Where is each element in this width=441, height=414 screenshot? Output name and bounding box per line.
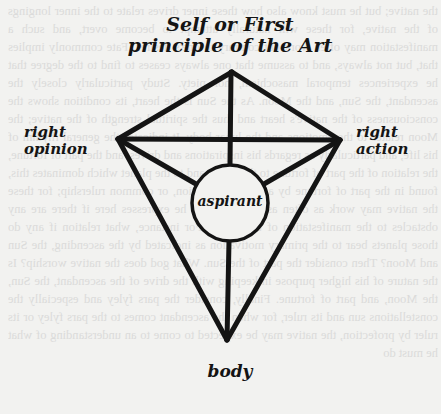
right-label-line-2: action (356, 141, 426, 158)
node-right-opinion: right opinion (24, 124, 94, 158)
edge-top-right (232, 72, 340, 140)
book-page: the native; but he must know also how th… (0, 0, 441, 414)
right-label-line-1: right (356, 124, 426, 141)
title-line-2: principle of the Art (120, 35, 340, 56)
edge-top-center (230, 72, 231, 165)
node-right-action: right action (356, 124, 426, 158)
node-self-first-principle: Self or First principle of the Art (120, 14, 340, 56)
title-line-1: Self or First (120, 14, 340, 35)
node-aspirant: aspirant (190, 194, 270, 208)
left-label-line-2: opinion (24, 141, 94, 158)
edge-top-left (118, 72, 232, 139)
edge-center-bottom (227, 241, 229, 340)
left-label-line-1: right (24, 124, 94, 141)
node-body: body (190, 363, 270, 380)
